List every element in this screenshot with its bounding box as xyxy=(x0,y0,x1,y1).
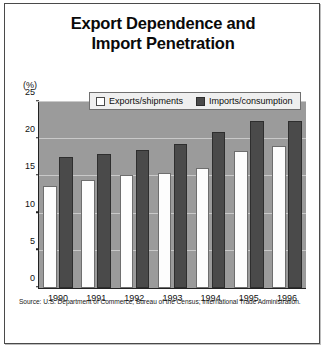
bar-1996-exports xyxy=(272,146,286,288)
legend-label-imports: Imports/consumption xyxy=(209,96,293,106)
bar-1994-imports xyxy=(212,132,226,288)
bar-group: 1994 xyxy=(192,102,230,288)
bar-1995-exports xyxy=(234,151,248,288)
bar-group: 1993 xyxy=(153,102,191,288)
y-axis-tick-label: 20 xyxy=(25,124,35,134)
bar-1993-exports xyxy=(158,173,172,288)
y-axis-tick-label: 15 xyxy=(25,161,35,171)
legend-item-exports: Exports/shipments xyxy=(96,96,183,106)
bars-layer: 1990199119921993199419951996 xyxy=(39,102,306,288)
bar-1994-exports xyxy=(196,168,210,288)
y-axis-tick-label: 10 xyxy=(25,199,35,209)
legend-swatch-exports-icon xyxy=(96,97,105,106)
bar-1990-exports xyxy=(43,186,57,288)
bar-group: 1992 xyxy=(115,102,153,288)
chart-plot: (%) 0510152025 1990199119921993199419951… xyxy=(5,4,321,345)
bar-group: 1990 xyxy=(39,102,77,288)
bar-group: 1995 xyxy=(230,102,268,288)
y-axis-tick-label: 5 xyxy=(30,236,35,246)
bar-1993-imports xyxy=(174,144,188,288)
plot-area: 0510152025 1990199119921993199419951996 xyxy=(38,102,306,289)
bar-1991-imports xyxy=(97,154,111,288)
source-note: Source: U.S. Department of Commerce; Bur… xyxy=(19,298,315,305)
legend-item-imports: Imports/consumption xyxy=(196,96,293,106)
bar-1992-imports xyxy=(136,150,150,288)
bar-1991-exports xyxy=(81,180,95,288)
legend-swatch-imports-icon xyxy=(196,97,205,106)
bar-1995-imports xyxy=(250,121,264,288)
bar-group: 1991 xyxy=(77,102,115,288)
bar-1996-imports xyxy=(288,121,302,288)
y-axis-tick-label: 25 xyxy=(25,87,35,97)
bar-1990-imports xyxy=(59,157,73,288)
y-axis-tick-label: 0 xyxy=(30,273,35,283)
bar-1992-exports xyxy=(120,175,134,288)
bar-group: 1996 xyxy=(268,102,306,288)
legend-label-exports: Exports/shipments xyxy=(109,96,183,106)
figure-card: Export Dependence and Import Penetration… xyxy=(4,3,320,344)
chart-legend: Exports/shipments Imports/consumption xyxy=(89,92,301,110)
